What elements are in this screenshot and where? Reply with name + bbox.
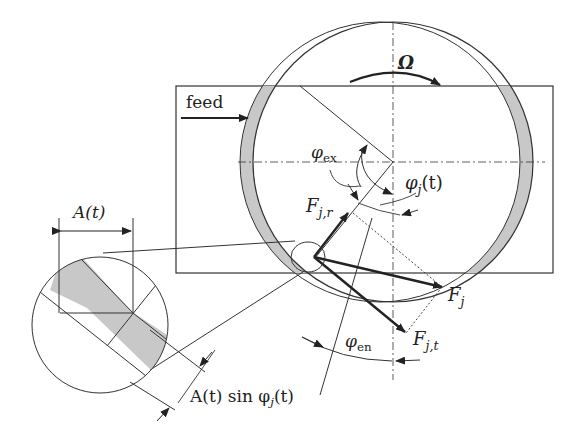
F-jt-subscript: j,t <box>426 338 439 353</box>
phi-en-arrow-right <box>396 360 420 361</box>
F-jr-label: Fj,r <box>306 195 332 220</box>
A-sin-arrow-bottom <box>157 408 169 421</box>
feed-label: feed <box>186 92 223 112</box>
A-t-label: A(t) <box>73 202 105 222</box>
angle-arrow-right <box>402 210 418 215</box>
A-sin-arrow-top <box>200 352 212 366</box>
F-jt-label: Fj,t <box>413 328 438 353</box>
omega-label: Ω <box>398 52 414 73</box>
diagram-canvas <box>0 0 581 444</box>
phi-en-arrow-left <box>302 337 323 347</box>
phi-j-bottom-arc <box>358 203 400 215</box>
F-j-subscript: j <box>461 294 465 309</box>
F-j-label: Fj <box>448 284 464 309</box>
phi-j-arc <box>362 150 392 194</box>
F-jt-symbol: F <box>413 328 426 349</box>
A-sin-label: A(t) sin φj(t) <box>190 386 294 409</box>
force-radial-arrow <box>314 213 348 257</box>
phi-ex-label: φex <box>311 142 337 165</box>
phi-ex-subscript: ex <box>323 151 337 165</box>
force-construction-line <box>406 287 442 333</box>
phi-j-arg: (t) <box>422 172 443 193</box>
detail-circle <box>291 242 325 272</box>
phi-en-label: φen <box>345 331 372 354</box>
F-j-symbol: F <box>448 284 461 305</box>
rotation-arrow <box>350 73 440 85</box>
phi-j-label: φj(t) <box>405 172 443 197</box>
A-sin-arg: (t) <box>274 386 294 406</box>
phi-ex-symbol: φ <box>311 142 323 162</box>
F-jr-symbol: F <box>306 195 319 216</box>
F-jr-subscript: j,r <box>319 205 333 220</box>
entry-line <box>320 218 372 395</box>
magnified-view <box>32 218 215 421</box>
A-sin-text: A(t) sin φ <box>190 386 270 406</box>
magnify-connector <box>103 241 295 253</box>
phi-j-symbol: φ <box>405 172 418 193</box>
phi-en-symbol: φ <box>345 331 357 351</box>
phi-ex-leader <box>330 170 360 187</box>
magnify-connector <box>150 272 303 370</box>
phi-en-subscript: en <box>357 340 372 354</box>
